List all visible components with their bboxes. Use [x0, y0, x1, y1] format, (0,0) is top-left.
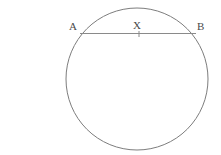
geometry-diagram-svg: [0, 0, 221, 155]
point-label-a: A: [69, 21, 77, 32]
point-label-x: X: [133, 20, 141, 31]
geometry-figure-canvas: A X B: [0, 0, 221, 155]
point-label-b: B: [197, 21, 204, 32]
